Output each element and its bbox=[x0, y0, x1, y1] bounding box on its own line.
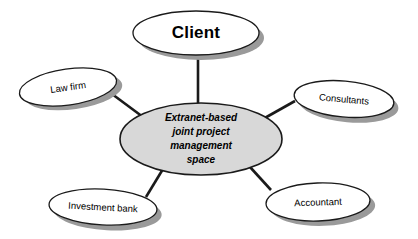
center-label: Extranet-based bbox=[165, 112, 238, 123]
connector-accountant-to-center bbox=[250, 167, 271, 190]
node-extranet-space[interactable]: Extranet-based joint project management … bbox=[120, 103, 282, 175]
node-client[interactable]: Client bbox=[133, 11, 264, 60]
diagram-canvas: Client Law firm Consultants Investment b… bbox=[0, 0, 418, 239]
connector-investment-bank-to-center bbox=[146, 169, 163, 197]
accountant-label: Accountant bbox=[294, 196, 342, 209]
center-label-line2: joint project bbox=[170, 126, 230, 137]
center-label-line4: space bbox=[187, 154, 216, 165]
client-label: Client bbox=[172, 23, 221, 42]
hub-and-spoke-diagram: Client Law firm Consultants Investment b… bbox=[0, 0, 418, 239]
connector-law-firm-to-center bbox=[112, 94, 143, 117]
node-consultants[interactable]: Consultants bbox=[292, 77, 400, 127]
node-law-firm[interactable]: Law firm bbox=[17, 62, 125, 117]
node-investment-bank[interactable]: Investment bank bbox=[48, 186, 163, 233]
connector-consultants-to-center bbox=[263, 101, 295, 119]
center-label-line3: management bbox=[170, 140, 232, 151]
node-accountant[interactable]: Accountant bbox=[265, 181, 375, 228]
